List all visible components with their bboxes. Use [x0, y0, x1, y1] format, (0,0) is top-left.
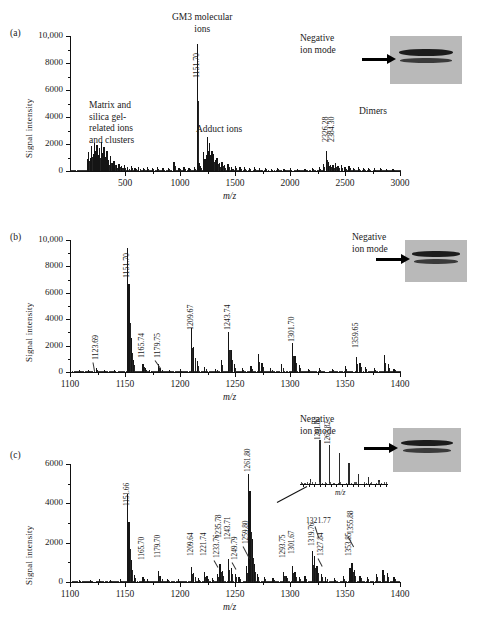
x-tick-label: 1250	[213, 379, 257, 389]
peak-label: 1123.69	[91, 326, 100, 360]
noise-peak	[268, 371, 269, 372]
gel-image-b	[405, 240, 467, 282]
noise-peak	[107, 581, 108, 582]
x-axis-title: m/z	[223, 191, 236, 201]
panel-c-ylabel: Signal intensity	[24, 480, 34, 585]
x-tick-label: 1250	[213, 589, 257, 599]
noise-peak	[331, 581, 332, 582]
y-minor-tick	[68, 158, 71, 159]
mode-label-b: Negativeion mode	[352, 232, 388, 255]
x-axis-title: m/z	[223, 602, 236, 612]
peak-shoulder	[369, 169, 370, 171]
inset-peak	[339, 453, 340, 484]
inset-tick	[353, 484, 354, 487]
noise-peak	[337, 371, 338, 372]
peak-shoulder	[236, 168, 237, 171]
noise-peak	[82, 581, 83, 582]
noise-peak	[154, 371, 155, 372]
y-tick-label: 6000	[21, 287, 63, 297]
x-tick	[290, 372, 291, 377]
y-tick-label: 4000	[21, 497, 63, 507]
annotation-dimers: Dimers	[359, 106, 387, 118]
inset-tick	[309, 484, 310, 487]
peak-shoulder	[395, 579, 396, 582]
x-minor-tick	[263, 582, 264, 585]
x-tick-label: 500	[103, 178, 147, 188]
peak-label: 1179.70	[153, 524, 162, 558]
peak-shoulder	[198, 366, 199, 372]
x-tick	[290, 582, 291, 587]
x-minor-tick	[153, 171, 154, 174]
y-minor-tick	[68, 484, 71, 485]
peak-shoulder	[232, 574, 233, 582]
x-tick-label: 1400	[378, 589, 422, 599]
inset-noise	[310, 482, 311, 484]
noise-peak	[295, 170, 296, 171]
x-tick	[235, 171, 236, 176]
noise-peak	[138, 371, 139, 372]
x-minor-tick	[208, 171, 209, 174]
peak-shoulder	[263, 367, 264, 372]
peak-shoulder	[300, 579, 301, 582]
y-minor-tick	[68, 280, 71, 281]
noise-peak	[123, 371, 124, 372]
x-minor-tick	[318, 372, 319, 375]
peak-label: 1209.67	[186, 296, 195, 330]
noise-peak	[170, 170, 171, 171]
inset-noise	[338, 483, 339, 484]
y-tick-label: 8000	[21, 260, 63, 270]
y-tick-label: 0	[21, 576, 63, 586]
noise-peak	[315, 170, 316, 171]
noise-peak	[84, 581, 85, 582]
noise-peak	[262, 170, 263, 171]
peak-shoulder	[296, 363, 297, 372]
noise-peak	[311, 371, 312, 372]
peak-shoulder	[148, 169, 149, 171]
peak-shoulder	[272, 370, 273, 372]
peak-shoulder	[208, 579, 209, 582]
x-tick-label: 1350	[323, 379, 367, 389]
inset-noise	[386, 482, 387, 484]
inset-tick	[303, 484, 304, 487]
peak-label: 1243.74	[223, 296, 232, 330]
x-tick	[345, 582, 346, 587]
peak-shoulder	[306, 170, 307, 171]
noise-peak	[202, 581, 203, 582]
x-tick-label: 1200	[158, 379, 202, 389]
peak-shoulder	[229, 167, 230, 171]
noise-peak	[352, 371, 353, 372]
peak-shoulder	[195, 358, 196, 372]
peak-shoulder	[148, 581, 149, 583]
peak-shoulder	[132, 570, 133, 582]
peak-shoulder	[265, 579, 266, 582]
peak-shoulder	[354, 169, 355, 171]
noise-peak	[337, 581, 338, 582]
gel-arrow-a	[362, 58, 388, 61]
x-tick	[400, 372, 401, 377]
x-tick-label: 1350	[323, 589, 367, 599]
noise-peak	[380, 371, 381, 372]
peak-label: 1359.65	[351, 314, 360, 348]
panel-c: (c) Signal intensity 0200040006000110011…	[0, 420, 484, 628]
peak-label: 1221.74	[199, 522, 208, 556]
x-tick-label: 1200	[158, 589, 202, 599]
peak-label: 1259.80	[241, 510, 250, 544]
inset-noise	[319, 482, 320, 484]
noise-peak	[253, 371, 254, 372]
noise-peak	[400, 170, 401, 171]
noise-peak	[96, 581, 97, 582]
x-tick	[180, 582, 181, 587]
noise-peak	[310, 170, 311, 171]
noise-peak	[77, 371, 78, 372]
x-minor-tick	[373, 171, 374, 174]
peak-shoulder	[320, 370, 321, 372]
inset-noise	[334, 483, 335, 484]
peak-shoulder	[346, 369, 347, 372]
peak-shoulder	[350, 168, 351, 171]
inset-peak	[358, 474, 359, 484]
noise-peak	[364, 581, 365, 582]
noise-peak	[309, 170, 310, 171]
x-minor-tick	[208, 582, 209, 585]
gel-band-upper	[412, 251, 459, 257]
y-minor-tick	[68, 104, 71, 105]
